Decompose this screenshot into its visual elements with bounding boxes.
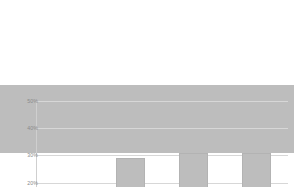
bar-chart: 50% 40% 30% 20% 10% 0% lente zomer herfs… [0, 85, 294, 154]
x-tick-labels-group: lente zomer herfst winter [0, 85, 294, 188]
